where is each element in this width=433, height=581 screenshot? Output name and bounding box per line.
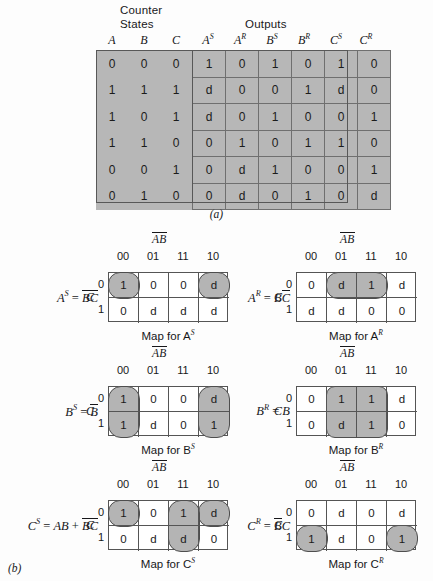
kmap-cell-as-r1c2: d xyxy=(169,298,199,323)
kmap-equation-as: AS = BC xyxy=(20,290,98,306)
state-cell: 1 xyxy=(160,104,193,131)
kmap-cell-cs-r0c3: d xyxy=(199,501,229,526)
kmap-col-10: 10 xyxy=(386,250,416,262)
output-cell: 0 xyxy=(358,51,391,78)
kmap-cell-cr-r1c2: 0 xyxy=(357,526,387,551)
kmap-cell-cr-r1c1: d xyxy=(327,526,357,551)
kmap-col-11: 11 xyxy=(356,478,386,490)
state-cell: 0 xyxy=(96,51,128,78)
output-cell: 0 xyxy=(193,130,226,157)
state-cell: 1 xyxy=(128,77,160,104)
kmap-col-01: 01 xyxy=(138,478,168,490)
kmap-ab-label-ar: AB xyxy=(340,232,355,245)
state-cell: 0 xyxy=(128,157,160,184)
col-header-BS: BS xyxy=(256,33,288,48)
kmap-cell-br-r0c1: 1 xyxy=(327,387,357,412)
output-cell: 0 xyxy=(292,51,325,78)
counter-states-header-line1: Counter xyxy=(120,4,162,16)
kmap-cell-as-r0c0: 1 xyxy=(109,273,139,298)
output-cell: 0 xyxy=(226,51,259,78)
kmap-col-00: 00 xyxy=(296,250,326,262)
output-cell: 1 xyxy=(292,77,325,104)
output-cell: 0 xyxy=(193,157,226,184)
table-row: 111d001d0 xyxy=(96,77,391,104)
output-cell: 0 xyxy=(259,130,292,157)
state-cell: 0 xyxy=(128,104,160,131)
kmap-cell-br-r1c1: d xyxy=(327,412,357,437)
kmap-cell-ar-r1c2: 0 xyxy=(357,298,387,323)
table-row: 0010d1001 xyxy=(96,157,391,184)
kmap-cell-br-r1c3: 0 xyxy=(387,412,417,437)
col-header-B: B xyxy=(128,33,160,48)
kmap-col-11: 11 xyxy=(356,364,386,376)
kmap-col-00: 00 xyxy=(296,478,326,490)
kmap-grid-cr: 0d0d1d01 xyxy=(296,500,416,550)
kmap-cell-br-r0c3: d xyxy=(387,387,417,412)
output-cell: 1 xyxy=(358,104,391,131)
kmap-cell-ar-r0c3: d xyxy=(387,273,417,298)
kmap-col-01: 01 xyxy=(326,250,356,262)
state-cell: 0 xyxy=(128,51,160,78)
col-header-AS: AS xyxy=(192,33,224,48)
kmap-cell-as-r1c1: d xyxy=(139,298,169,323)
kmap-ab-label-bs: AB xyxy=(152,346,167,359)
kmap-cell-bs-r1c2: 0 xyxy=(169,412,199,437)
kmap-cell-ar-r1c3: 0 xyxy=(387,298,417,323)
output-cell: d xyxy=(226,183,259,210)
col-header-C: C xyxy=(160,33,192,48)
kmap-cell-as-r0c3: d xyxy=(199,273,229,298)
kmap-ab-label-as: AB xyxy=(152,232,167,245)
kmap-col-01: 01 xyxy=(326,478,356,490)
col-header-CR: CR xyxy=(350,33,382,48)
kmap-cell-bs-r0c3: d xyxy=(199,387,229,412)
kmap-cell-cr-r1c0: 1 xyxy=(297,526,327,551)
kmap-row-0-cr: 0 xyxy=(280,506,292,518)
table-row: 0100d010d xyxy=(96,183,391,210)
output-cell: d xyxy=(325,77,358,104)
kmap-row-0-bs: 0 xyxy=(92,392,104,404)
kmap-caption-ar: Map for AR xyxy=(296,330,416,342)
kmap-cell-ar-r0c1: d xyxy=(327,273,357,298)
caption-a: (a) xyxy=(0,208,433,220)
kmap-cell-ar-r0c0: 0 xyxy=(297,273,327,298)
output-cell: d xyxy=(226,157,259,184)
kmap-cell-cr-r0c3: d xyxy=(387,501,417,526)
kmap-cell-br-r0c2: 1 xyxy=(357,387,387,412)
kmap-cell-as-r0c2: 0 xyxy=(169,273,199,298)
kmap-cell-cr-r0c1: d xyxy=(327,501,357,526)
state-cell: 0 xyxy=(160,130,193,157)
output-cell: d xyxy=(193,104,226,131)
state-cell: 0 xyxy=(96,157,128,184)
kmap-col-01: 01 xyxy=(138,364,168,376)
output-cell: 0 xyxy=(358,77,391,104)
output-cell: 1 xyxy=(259,157,292,184)
kmap-col-11: 11 xyxy=(168,250,198,262)
kmap-caption-cr: Map for CR xyxy=(296,558,416,570)
state-cell: 1 xyxy=(160,77,193,104)
state-cell: 0 xyxy=(96,183,128,210)
output-cell: 1 xyxy=(325,130,358,157)
kmap-cell-bs-r1c1: d xyxy=(139,412,169,437)
output-cell: d xyxy=(358,183,391,210)
kmap-cell-bs-r1c0: 1 xyxy=(109,412,139,437)
kmap-caption-cs: Map for CS xyxy=(108,558,228,570)
kmap-col-10: 10 xyxy=(198,250,228,262)
kmap-cell-as-r1c0: 0 xyxy=(109,298,139,323)
kmap-grid-as: 100d0ddd xyxy=(108,272,228,322)
caption-b: (b) xyxy=(8,562,21,574)
kmap-col-00: 00 xyxy=(296,364,326,376)
counter-states-header-line2: States xyxy=(120,18,154,30)
output-cell: 1 xyxy=(325,51,358,78)
state-cell: 1 xyxy=(128,183,160,210)
state-cell: 1 xyxy=(96,77,128,104)
output-cell: 1 xyxy=(292,183,325,210)
output-cell: 1 xyxy=(259,104,292,131)
kmap-cell-ar-r0c2: 1 xyxy=(357,273,387,298)
figure-page: Counter States Outputs A B C AS AR BS BR… xyxy=(0,0,433,581)
kmap-col-11: 11 xyxy=(168,478,198,490)
kmap-row-0-ar: 0 xyxy=(280,278,292,290)
output-cell: 1 xyxy=(358,157,391,184)
kmap-row-0-br: 0 xyxy=(280,392,292,404)
output-cell: 0 xyxy=(325,104,358,131)
table-row: 000101010 xyxy=(96,51,391,78)
